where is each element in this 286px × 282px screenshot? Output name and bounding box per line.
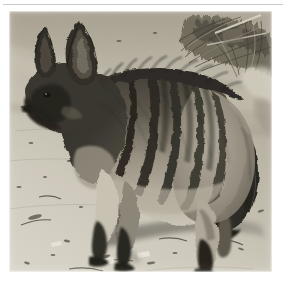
page-root: [0, 0, 286, 282]
photo-figure: [9, 11, 272, 272]
horizontal-rule-divider: [3, 4, 283, 5]
aardwolf-photograph: [9, 11, 272, 272]
aardwolf-photo-svg: [9, 11, 272, 272]
